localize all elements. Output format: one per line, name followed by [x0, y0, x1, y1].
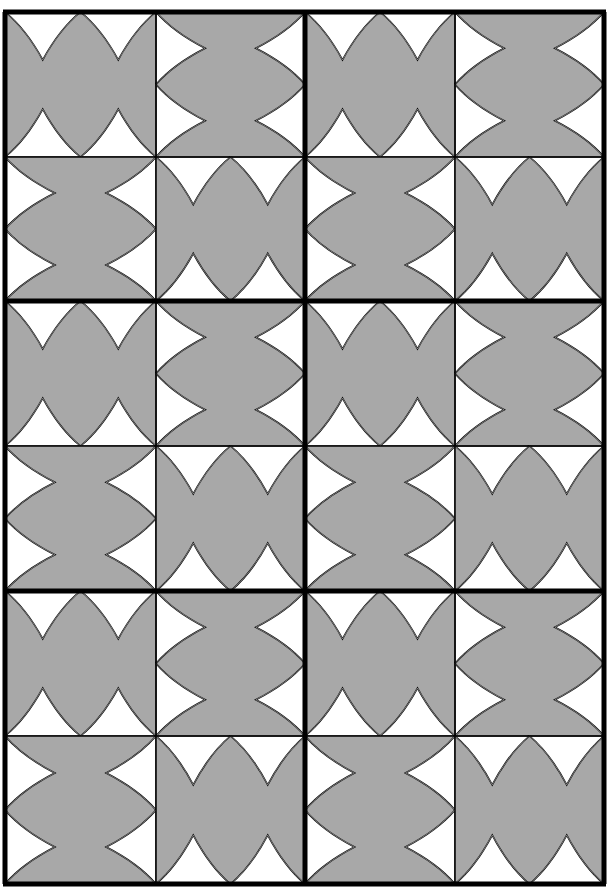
tile-vertical — [156, 12, 305, 157]
tile-horizontal — [5, 301, 156, 446]
tile-vertical — [305, 736, 455, 884]
tile-vertical — [305, 446, 455, 591]
tile-horizontal — [455, 736, 604, 884]
quilt-pattern — [0, 0, 610, 890]
tile-horizontal — [5, 591, 156, 736]
tile-vertical — [156, 591, 305, 736]
tile-vertical — [305, 157, 455, 301]
tile-vertical — [5, 157, 156, 301]
tile-vertical — [5, 446, 156, 591]
tile-horizontal — [156, 736, 305, 884]
tile-vertical — [5, 736, 156, 884]
tile-horizontal — [455, 157, 604, 301]
tile-horizontal — [305, 12, 455, 157]
tile-horizontal — [156, 446, 305, 591]
tile-vertical — [455, 591, 604, 736]
tile-vertical — [455, 301, 604, 446]
tile-horizontal — [455, 446, 604, 591]
tile-horizontal — [5, 12, 156, 157]
tile-horizontal — [305, 301, 455, 446]
tile-vertical — [455, 12, 604, 157]
tile-horizontal — [156, 157, 305, 301]
tile-vertical — [156, 301, 305, 446]
tile-horizontal — [305, 591, 455, 736]
